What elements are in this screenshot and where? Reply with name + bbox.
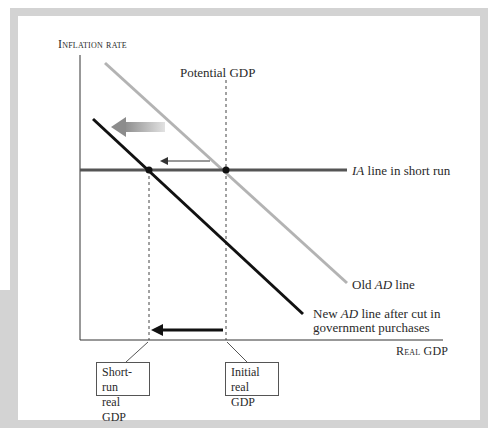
short-run-box-line2: real GDP xyxy=(102,395,144,425)
new-ad-suffix: line after cut in xyxy=(358,306,440,321)
old-ad-suffix: line xyxy=(392,277,415,292)
short-run-box-line1: Short-run xyxy=(102,365,144,395)
initial-real-gdp-box: Initial real GDP xyxy=(225,362,279,396)
gdp-decline-arrow-icon xyxy=(151,324,223,336)
ia-line-label: IA line in short run xyxy=(352,163,450,178)
ia-label-suffix: line in short run xyxy=(364,163,450,178)
initial-equilibrium-dot xyxy=(223,167,230,174)
y-axis-label: Inflation rate xyxy=(58,37,127,52)
old-ad-italic: AD xyxy=(375,277,392,292)
new-ad-line-label-1: New AD line after cut in xyxy=(313,306,440,321)
initial-box-line2: real GDP xyxy=(231,380,273,410)
new-ad-line-label-2: government purchases xyxy=(313,320,430,335)
old-ad-prefix: Old xyxy=(352,277,375,292)
inflation-path-arrow-icon xyxy=(160,157,210,165)
ad-shift-arrow-icon xyxy=(111,117,165,137)
x-axis-label: Real GDP xyxy=(396,344,448,359)
ia-label-italic: IA xyxy=(352,163,364,178)
initial-box-line1: Initial xyxy=(231,365,273,380)
initial-leader-line xyxy=(227,342,247,362)
short-run-leader-line xyxy=(126,342,148,362)
new-ad-prefix: New xyxy=(313,306,341,321)
short-run-equilibrium-dot xyxy=(146,167,153,174)
old-ad-line-label: Old AD line xyxy=(352,277,415,292)
potential-gdp-label: Potential GDP xyxy=(180,65,255,80)
new-ad-italic: AD xyxy=(341,306,358,321)
short-run-real-gdp-box: Short-run real GDP xyxy=(96,362,150,396)
